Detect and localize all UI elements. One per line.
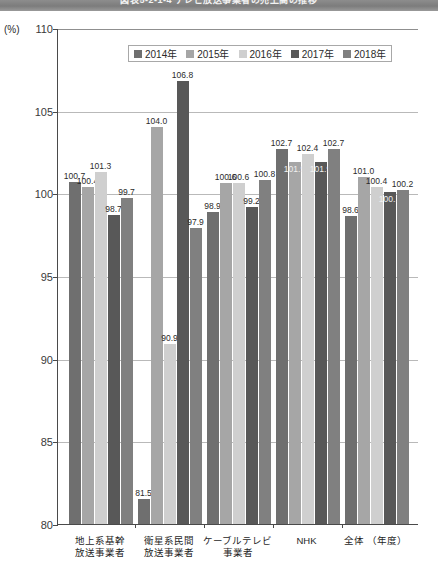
bar-2015年-NHK[interactable]: 101.9 [289, 162, 301, 524]
bar-slot: 102.7 [328, 29, 340, 524]
bar-2015年-ケーブルテレビ事業者[interactable]: 100.6 [220, 183, 232, 524]
legend-label: 2016年 [250, 46, 282, 61]
bar-slot: 101.9 [315, 29, 327, 524]
bar-2018年-全体[interactable]: 100.2 [397, 190, 409, 524]
legend-swatch-icon [134, 50, 142, 58]
y-axis-tickmark [53, 360, 58, 361]
bar-slot: 100.1 [384, 29, 396, 524]
bar-2015年-地上系基幹放送事業者[interactable]: 100.4 [82, 187, 94, 524]
bar-2018年-地上系基幹放送事業者[interactable]: 99.7 [121, 198, 133, 524]
x-axis-group-separator [273, 524, 274, 528]
legend-item-2014年: 2014年 [134, 46, 177, 61]
bar-2017年-地上系基幹放送事業者[interactable]: 98.7 [108, 215, 120, 524]
y-axis-tick-90: 90 [21, 354, 53, 366]
legend-swatch-icon [239, 50, 247, 58]
bar-slot: 99.7 [121, 29, 133, 524]
bar-slot: 81.5 [138, 29, 150, 524]
bar-2014年-衛星系民間放送事業者[interactable]: 81.5 [138, 499, 150, 524]
bar-slot: 100.4 [82, 29, 94, 524]
legend-item-2015年: 2015年 [186, 46, 229, 61]
bar-group-NHK: 102.7101.9102.4101.9102.7 [273, 29, 343, 524]
y-axis-tick-100: 100 [21, 188, 53, 200]
bar-slot: 98.6 [345, 29, 357, 524]
legend-item-2018年: 2018年 [343, 46, 386, 61]
legend-label: 2018年 [354, 46, 386, 61]
y-axis-tickmark [53, 112, 58, 113]
bar-2017年-ケーブルテレビ事業者[interactable]: 99.2 [246, 207, 258, 524]
plot-area: 100.7100.4101.398.799.781.5104.090.9106.… [57, 29, 418, 525]
bar-2016年-衛星系民間放送事業者[interactable]: 90.9 [164, 344, 176, 524]
bar-value-label: 100.2 [392, 180, 413, 189]
bar-slot: 100.7 [69, 29, 81, 524]
bar-slot: 102.4 [302, 29, 314, 524]
bar-group-地上系基幹放送事業者: 100.7100.4101.398.799.7 [66, 29, 136, 524]
bar-2014年-NHK[interactable]: 102.7 [276, 149, 288, 524]
bar-2015年-衛星系民間放送事業者[interactable]: 104.0 [151, 127, 163, 524]
bar-slot: 106.8 [177, 29, 189, 524]
bar-slot: 100.4 [371, 29, 383, 524]
y-axis-tickmark [53, 442, 58, 443]
bar-slot: 100.2 [397, 29, 409, 524]
y-axis-tick-80: 80 [21, 519, 53, 531]
legend-label: 2015年 [197, 46, 229, 61]
bar-slot: 98.9 [207, 29, 219, 524]
chart-legend: 2014年2015年2016年2017年2018年 [128, 45, 392, 62]
chart-title-banner: 図表5-2-1-4 テレビ放送事業者の売上高の推移 [0, 0, 438, 11]
legend-label: 2017年 [302, 46, 334, 61]
bar-2016年-NHK[interactable]: 102.4 [302, 154, 314, 524]
y-axis-tick-110: 110 [21, 23, 53, 35]
y-axis-tick-105: 105 [21, 106, 53, 118]
bar-slot: 97.9 [190, 29, 202, 524]
bar-group-衛星系民間放送事業者: 81.5104.090.9106.897.9 [135, 29, 205, 524]
bar-2018年-衛星系民間放送事業者[interactable]: 97.9 [190, 228, 202, 524]
bar-group-ケーブルテレビ事業者: 98.9100.6100.699.2100.8 [204, 29, 274, 524]
y-axis-tick-85: 85 [21, 436, 53, 448]
bar-value-label: 98.9 [204, 202, 221, 211]
bar-2014年-ケーブルテレビ事業者[interactable]: 98.9 [207, 212, 219, 524]
legend-item-2016年: 2016年 [239, 46, 282, 61]
bar-2014年-地上系基幹放送事業者[interactable]: 100.7 [69, 182, 81, 524]
x-axis-label-line: 事業者 [189, 547, 287, 559]
x-axis-label-全体: 全体 （年度） [327, 535, 425, 547]
chart-container: (%) 11010510095908580 100.7100.4101.398.… [0, 11, 438, 571]
x-axis-label-line: 全体 （年度） [327, 535, 425, 547]
bar-slot: 101.3 [95, 29, 107, 524]
bar-value-label: 98.6 [342, 206, 359, 215]
bar-value-label: 99.2 [243, 197, 260, 206]
bar-slot: 100.8 [259, 29, 271, 524]
bar-2017年-全体[interactable]: 100.1 [384, 192, 396, 524]
y-axis-tickmark [53, 29, 58, 30]
bar-2015年-全体[interactable]: 101.0 [358, 177, 370, 524]
legend-swatch-icon [343, 50, 351, 58]
bar-2014年-全体[interactable]: 98.6 [345, 216, 357, 524]
y-axis-tickmark [53, 525, 58, 526]
bar-slot: 102.7 [276, 29, 288, 524]
chart-title-text: 図表5-2-1-4 テレビ放送事業者の売上高の推移 [0, 0, 438, 6]
bar-value-label: 98.7 [105, 205, 122, 214]
bar-2017年-NHK[interactable]: 101.9 [315, 162, 327, 524]
legend-label: 2014年 [145, 46, 177, 61]
bar-2016年-全体[interactable]: 100.4 [371, 187, 383, 524]
x-axis-group-separator [135, 524, 136, 528]
x-axis-group-separator [342, 524, 343, 528]
bar-group-全体: 98.6101.0100.4100.1100.2 [342, 29, 412, 524]
legend-swatch-icon [291, 50, 299, 58]
bar-slot: 101.0 [358, 29, 370, 524]
y-axis-tickmark [53, 277, 58, 278]
bar-value-label: 90.9 [161, 334, 178, 343]
bar-slot: 99.2 [246, 29, 258, 524]
bar-slot: 101.9 [289, 29, 301, 524]
bar-slot: 100.6 [220, 29, 232, 524]
x-axis-category-labels: 地上系基幹放送事業者衛星系民間放送事業者ケーブルテレビ事業者NHK全体 （年度） [57, 531, 418, 571]
bar-value-label: 81.5 [135, 489, 152, 498]
bar-value-label: 99.7 [118, 188, 135, 197]
bar-2018年-ケーブルテレビ事業者[interactable]: 100.8 [259, 180, 271, 524]
y-axis-tick-labels: 11010510095908580 [0, 11, 53, 571]
y-axis-tick-95: 95 [21, 271, 53, 283]
bar-2016年-地上系基幹放送事業者[interactable]: 101.3 [95, 172, 107, 524]
bar-slot: 98.7 [108, 29, 120, 524]
bar-value-label: 97.9 [187, 218, 204, 227]
bar-2018年-NHK[interactable]: 102.7 [328, 149, 340, 524]
bar-2016年-ケーブルテレビ事業者[interactable]: 100.6 [233, 183, 245, 524]
bar-2017年-衛星系民間放送事業者[interactable]: 106.8 [177, 81, 189, 524]
